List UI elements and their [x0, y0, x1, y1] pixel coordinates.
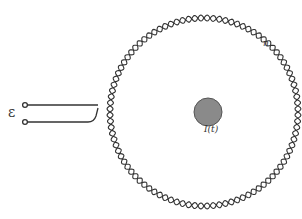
toroid-diagram: [0, 0, 302, 219]
terminal-bottom: [23, 120, 28, 125]
current-conductor: [194, 98, 222, 126]
current-label: I(t): [204, 124, 218, 134]
terminal-top: [23, 103, 28, 108]
emf-leads: [23, 103, 98, 125]
emf-label: ε: [8, 104, 15, 120]
turns-label: n: [263, 38, 269, 48]
